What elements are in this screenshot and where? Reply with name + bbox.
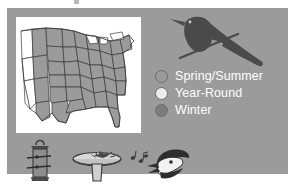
range-legend: Spring/Summer Year-Round Winter (155, 68, 288, 119)
singing-bird-icon (127, 144, 191, 182)
legend-item-spring-summer[interactable]: Spring/Summer (155, 68, 288, 84)
legend-item-label: Spring/Summer (175, 70, 263, 83)
figure-panel: Spring/Summer Year-Round Winter (7, 8, 288, 174)
united-states-range-map (16, 17, 141, 133)
circle-icon (155, 70, 168, 83)
bird-bath-icon (71, 144, 123, 184)
tube-feeder-icon (25, 136, 53, 184)
bird-range-map-figure: Spring/Summer Year-Round Winter (0, 0, 295, 184)
legend-item-year-round[interactable]: Year-Round (155, 85, 288, 101)
circle-icon (155, 104, 168, 117)
cropped-text-artifact (74, 0, 79, 4)
legend-item-winter[interactable]: Winter (155, 102, 288, 118)
perched-blackbird-silhouette (164, 12, 282, 70)
legend-item-label: Winter (175, 104, 212, 117)
circle-icon (155, 87, 168, 100)
legend-item-label: Year-Round (175, 87, 242, 100)
